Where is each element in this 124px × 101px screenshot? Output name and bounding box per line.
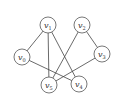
node-v3: v3	[94, 46, 110, 62]
edge-v1-v4	[48, 25, 79, 84]
edges	[22, 25, 102, 85]
node-subscript: 1	[49, 25, 52, 31]
node-subscript: 0	[23, 57, 26, 63]
node-v0: v0	[14, 49, 30, 65]
graph-diagram: v0 v1 v2 v3 v4 v5	[0, 0, 124, 101]
node-subscript: 4	[80, 84, 83, 90]
edge-v1-v5	[48, 25, 49, 85]
node-v2: v2	[74, 17, 90, 33]
node-v4: v4	[71, 76, 87, 92]
node-subscript: 2	[83, 25, 86, 31]
node-subscript: 5	[50, 85, 53, 91]
node-subscript: 3	[103, 54, 106, 60]
nodes: v0 v1 v2 v3 v4 v5	[14, 17, 110, 93]
node-v1: v1	[40, 17, 56, 33]
node-v5: v5	[41, 77, 57, 93]
